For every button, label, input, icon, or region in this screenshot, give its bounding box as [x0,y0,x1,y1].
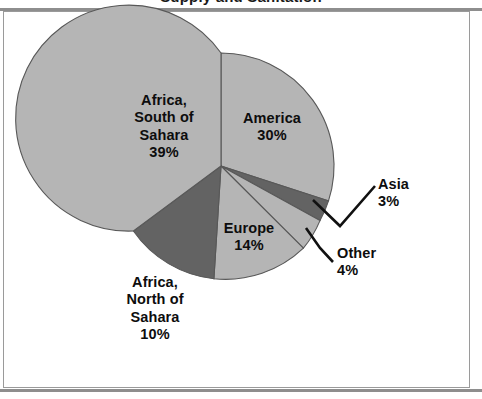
chart-screenshot: Supply and Sanitation Africa, South of S… [0,0,482,399]
pie-label-other: Other 4% [337,245,407,280]
pie-label-america: America 30% [224,110,320,145]
pie-label-asia: Asia 3% [378,176,440,211]
pie-label-africa-south: Africa, South of Sahara 39% [108,92,220,161]
pie-label-africa-north: Africa, North of Sahara 10% [100,274,210,343]
pie-label-europe: Europe 14% [203,220,295,255]
leader-line-other [306,228,333,262]
